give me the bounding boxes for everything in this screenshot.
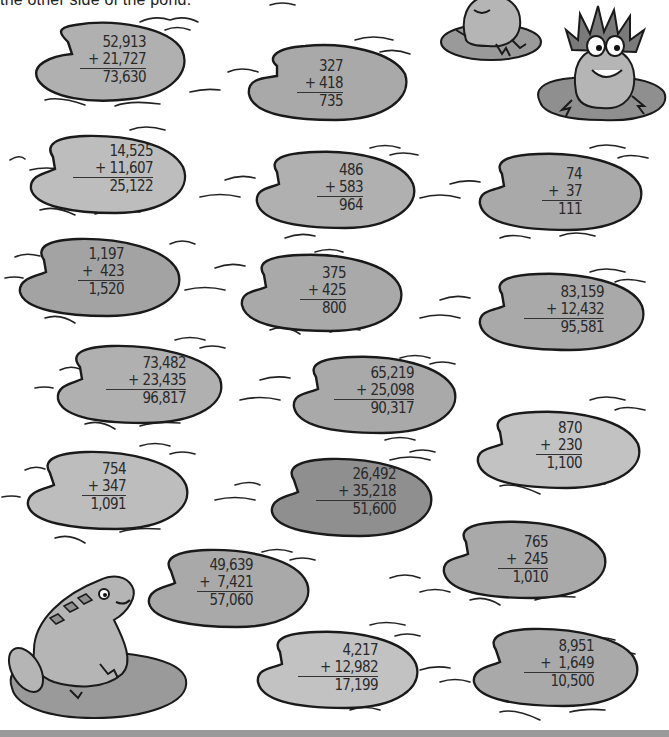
lily-pad-problem-7: 375 + 425 800 — [240, 253, 405, 333]
top-number: 73,482 — [106, 355, 186, 372]
top-number: 1,197 — [78, 246, 124, 263]
frog-crowned-illustration — [532, 0, 669, 122]
addition-problem: 49,639 + 7,421 57,060 — [197, 557, 253, 609]
lily-pad-problem-9: 73,482 + 23,435 96,817 — [48, 343, 226, 425]
sum-answer: 90,317 — [334, 400, 414, 417]
addend-number: + 35,218 — [316, 483, 396, 501]
top-number: 83,159 — [524, 284, 604, 301]
sum-answer: 96,817 — [106, 390, 186, 407]
top-number: 486 — [317, 162, 363, 179]
addend-number: + 425 — [300, 282, 346, 300]
frog-top-left-illustration — [436, 0, 546, 62]
lily-pad-problem-4: 486 + 583 964 — [255, 150, 420, 230]
sum-answer: 1,520 — [78, 281, 124, 298]
addend-number: + 25,098 — [334, 382, 414, 400]
addition-problem: 14,525 + 11,607 25,122 — [73, 143, 153, 195]
addend-number: + 1,649 — [524, 655, 594, 673]
addend-number: + 21,727 — [80, 51, 146, 69]
lily-pad-problem-10: 65,219 + 25,098 90,317 — [292, 355, 460, 435]
frog-bottom-left-illustration — [4, 570, 194, 720]
top-number: 65,219 — [334, 365, 414, 382]
sum-answer: 95,581 — [524, 319, 604, 336]
top-number: 375 — [300, 265, 346, 282]
top-number: 765 — [498, 534, 548, 551]
sum-answer: 25,122 — [73, 178, 153, 195]
lily-pad-problem-1: 52,913 + 21,727 73,630 — [20, 20, 190, 102]
lily-pad-problem-14: 765 + 245 1,010 — [442, 520, 610, 600]
addition-problem: 870 + 230 1,100 — [536, 420, 582, 472]
lily-pad-problem-6: 1,197 + 423 1,520 — [18, 236, 186, 318]
addition-problem: 26,492 + 35,218 51,600 — [316, 466, 396, 518]
addition-problem: 74 + 37 111 — [542, 166, 582, 218]
sum-answer: 57,060 — [197, 592, 253, 609]
lily-pad-problem-11: 870 + 230 1,100 — [476, 410, 644, 490]
addition-problem: 83,159 + 12,432 95,581 — [524, 284, 604, 336]
lily-pad-problem-13: 26,492 + 35,218 51,600 — [270, 456, 436, 538]
addend-number: + 423 — [78, 263, 124, 281]
sum-answer: 735 — [297, 93, 343, 110]
addition-problem: 52,913 + 21,727 73,630 — [80, 34, 146, 86]
addition-problem: 65,219 + 25,098 90,317 — [334, 365, 414, 417]
lily-pad-problem-16: 4,217 + 12,982 17,199 — [256, 630, 422, 710]
addition-problem: 73,482 + 23,435 96,817 — [106, 355, 186, 407]
addition-problem: 4,217 + 12,982 17,199 — [298, 642, 378, 694]
top-number: 8,951 — [524, 638, 594, 655]
addend-number: + 37 — [542, 183, 582, 201]
addition-problem: 8,951 + 1,649 10,500 — [524, 638, 594, 690]
top-number: 4,217 — [298, 642, 378, 659]
lily-pad-problem-5: 74 + 37 111 — [478, 152, 646, 232]
lily-pad-problem-3: 14,525 + 11,607 25,122 — [25, 133, 195, 215]
addend-number: + 12,982 — [298, 659, 378, 677]
top-number: 74 — [542, 166, 582, 183]
addition-problem: 375 + 425 800 — [300, 265, 346, 317]
top-number: 52,913 — [80, 34, 146, 51]
top-number: 327 — [297, 58, 343, 75]
addend-number: + 7,421 — [197, 574, 253, 592]
addend-number: + 11,607 — [73, 160, 153, 178]
sum-answer: 73,630 — [80, 69, 146, 86]
addition-problem: 486 + 583 964 — [317, 162, 363, 214]
top-number: 754 — [82, 461, 126, 478]
sum-answer: 17,199 — [298, 677, 378, 694]
lily-pad-problem-12: 754 + 347 1,091 — [26, 449, 194, 531]
addend-number: + 347 — [82, 478, 126, 496]
addend-number: + 230 — [536, 437, 582, 455]
sum-answer: 111 — [542, 201, 582, 218]
sum-answer: 1,100 — [536, 455, 582, 472]
top-number: 49,639 — [197, 557, 253, 574]
sum-answer: 51,600 — [316, 501, 396, 518]
addend-number: + 583 — [317, 179, 363, 197]
lily-pad-problem-17: 8,951 + 1,649 10,500 — [472, 626, 644, 708]
page-footer-bar — [0, 730, 669, 737]
addition-problem: 327 + 418 735 — [297, 58, 343, 110]
addition-problem: 765 + 245 1,010 — [498, 534, 548, 586]
addend-number: + 23,435 — [106, 372, 186, 390]
sum-answer: 964 — [317, 197, 363, 214]
top-number: 870 — [536, 420, 582, 437]
top-number: 14,525 — [73, 143, 153, 160]
sum-answer: 1,091 — [82, 496, 126, 513]
addend-number: + 418 — [297, 75, 343, 93]
lily-pad-problem-8: 83,159 + 12,432 95,581 — [478, 272, 650, 352]
addend-number: + 12,432 — [524, 301, 604, 319]
addend-number: + 245 — [498, 551, 548, 569]
lily-pad-problem-2: 327 + 418 735 — [245, 42, 410, 122]
sum-answer: 1,010 — [498, 569, 548, 586]
top-number: 26,492 — [316, 466, 396, 483]
sum-answer: 800 — [300, 300, 346, 317]
addition-problem: 754 + 347 1,091 — [82, 461, 126, 513]
sum-answer: 10,500 — [524, 673, 594, 690]
addition-problem: 1,197 + 423 1,520 — [78, 246, 124, 298]
